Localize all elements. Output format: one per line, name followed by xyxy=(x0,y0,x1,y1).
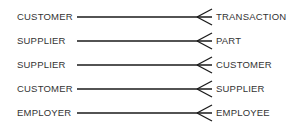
relationship-row: CUSTOMER SUPPLIER xyxy=(0,79,298,99)
entity-many-label: EMPLOYEE xyxy=(216,107,270,119)
entity-many-label: PART xyxy=(216,35,241,47)
relationship-row: SUPPLIER PART xyxy=(0,31,298,51)
relationship-row: SUPPLIER CUSTOMER xyxy=(0,55,298,75)
entity-many-label: SUPPLIER xyxy=(216,83,265,95)
relationship-row: EMPLOYER EMPLOYEE xyxy=(0,103,298,123)
entity-many-label: CUSTOMER xyxy=(216,59,272,71)
entity-many-label: TRANSACTION xyxy=(216,11,286,23)
relationship-diagram: CUSTOMER TRANSACTION SUPPLIER PART SUPPL… xyxy=(0,0,298,133)
relationship-row: CUSTOMER TRANSACTION xyxy=(0,7,298,27)
one-to-many-connector-icon xyxy=(0,31,298,51)
